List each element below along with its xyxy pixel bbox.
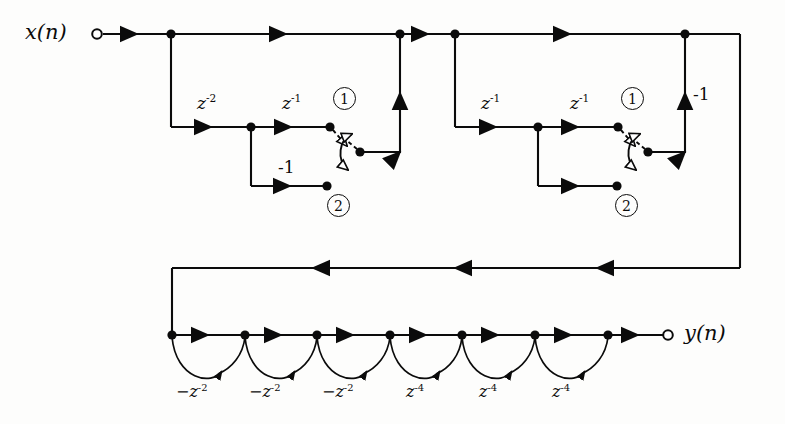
node-bottom-3 <box>312 330 321 339</box>
stage1-delay-a-label: z-2 <box>197 93 216 112</box>
bottom-arc-exp-3: -2 <box>344 382 354 393</box>
output-arg: (n) <box>696 321 726 345</box>
bottom-arc-4b <box>436 337 462 374</box>
node-input-split <box>166 29 175 38</box>
stage1-delay-b-label: z-1 <box>282 93 301 112</box>
node-stage2-split <box>450 29 459 38</box>
bottom-arc-sign-3: − <box>322 382 335 401</box>
node-stage2-switch-pole <box>643 147 652 156</box>
bottom-arc-label-5: z-4 <box>479 383 497 400</box>
node-bottom-5 <box>457 330 466 339</box>
input-arg: (n) <box>37 20 67 44</box>
bottom-arc-2b <box>291 337 317 374</box>
signal-flow-graph-svg <box>0 0 785 424</box>
bottom-arc-5b <box>508 337 535 374</box>
node-stage2-contact-2[interactable] <box>612 181 621 190</box>
stage1-switch-output-wire <box>360 34 400 152</box>
bottom-arc-exp-5: -4 <box>487 382 497 393</box>
stage1-switch-position-2-marker: 2 <box>327 194 350 217</box>
figure-canvas: x(n) y(n) z-2 z-1 -1 1 2 z-1 z-1 -1 1 2 … <box>0 0 785 424</box>
bottom-arc-5a <box>462 337 512 378</box>
output-signal-label: y(n) <box>684 323 726 344</box>
switch2-blade-lower[interactable] <box>634 140 645 149</box>
bottom-arc-3b <box>363 337 390 374</box>
node-bottom-4 <box>385 330 394 339</box>
stage1-switch-position-1-marker: 1 <box>333 87 356 110</box>
stage1-delay-b-exp: -1 <box>291 92 301 104</box>
bottom-arc-base-3: z <box>335 382 343 401</box>
switch2-rotation-arc[interactable] <box>628 134 640 170</box>
node-stage2-mid <box>533 122 542 131</box>
switch1-rotation-arc[interactable] <box>340 134 352 170</box>
stage2-delay-a-exp: -1 <box>490 92 500 104</box>
node-stage1-contact-2[interactable] <box>322 181 331 190</box>
bottom-arc-sign-1: − <box>176 382 189 401</box>
stage1-delay-b-base: z <box>282 93 291 113</box>
node-stage1-sum <box>395 29 404 38</box>
bottom-arc-exp-4: -4 <box>414 382 424 393</box>
output-var: y <box>684 321 696 345</box>
stage2-delay-b-base: z <box>570 93 579 113</box>
stage1-delay-a-base: z <box>197 93 206 113</box>
terminal-group <box>92 29 673 340</box>
stage1-delay-a-exp: -2 <box>206 92 216 104</box>
bottom-arc-sign-2: − <box>249 382 262 401</box>
node-bottom-1 <box>167 330 176 339</box>
bottom-arc-3a <box>317 337 367 378</box>
node-stage2-sum <box>680 29 689 38</box>
stage1-gain-label: -1 <box>278 159 295 176</box>
node-stage1-contact-1[interactable] <box>325 122 334 131</box>
bottom-arc-6a <box>535 337 585 378</box>
input-terminal <box>92 29 102 39</box>
stage2-switch-position-2-marker: 2 <box>615 194 638 217</box>
bottom-arc-label-6: z-4 <box>552 383 570 400</box>
bottom-arc-label-1: −z-2 <box>176 383 208 400</box>
input-signal-label: x(n) <box>25 22 67 43</box>
node-stage1-switch-pole <box>355 147 364 156</box>
bottom-arc-base-2: z <box>262 382 270 401</box>
node-bottom-6 <box>530 330 539 339</box>
bottom-arc-exp-6: -4 <box>560 382 570 393</box>
stage2-feedback-gain-label: -1 <box>693 86 710 103</box>
stage2-delay-b-exp: -1 <box>579 92 589 104</box>
bottom-arc-label-2: −z-2 <box>249 383 281 400</box>
input-var: x <box>25 20 37 44</box>
bottom-arc-1a <box>172 337 222 378</box>
bottom-arc-base-1: z <box>189 382 197 401</box>
stage2-switch-position-1-marker: 1 <box>621 87 644 110</box>
bottom-arc-label-4: z-4 <box>406 383 424 400</box>
bottom-arc-1b <box>218 337 245 374</box>
bottom-arc-2a <box>245 337 295 378</box>
output-terminal <box>663 330 673 340</box>
stage2-delay-b-label: z-1 <box>570 93 589 112</box>
node-group <box>166 29 689 339</box>
bottom-arc-6b <box>581 337 608 374</box>
node-stage2-contact-1[interactable] <box>613 122 622 131</box>
bottom-arc-exp-2: -2 <box>271 382 281 393</box>
stage2-delay-a-label: z-1 <box>481 93 500 112</box>
bottom-arc-4a <box>390 337 440 378</box>
bottom-arc-label-3: −z-2 <box>322 383 354 400</box>
node-stage1-mid <box>246 122 255 131</box>
bottom-arc-exp-1: -2 <box>198 382 208 393</box>
wire-group <box>103 34 740 378</box>
switch1-blade-lower[interactable] <box>346 140 357 149</box>
stage2-feedback-gain-wire <box>648 34 685 152</box>
node-bottom-2 <box>240 330 249 339</box>
node-bottom-7 <box>603 330 612 339</box>
stage2-delay-a-base: z <box>481 93 490 113</box>
